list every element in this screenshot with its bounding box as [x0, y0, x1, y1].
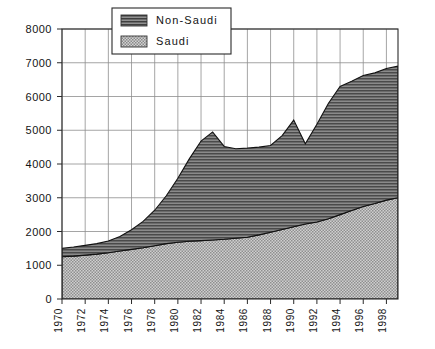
legend-swatch-saudi [121, 36, 147, 47]
legend-label-saudi: Saudi [156, 35, 190, 47]
x-axis-tick-label: 1994 [331, 308, 342, 333]
x-axis-tick-label: 1990 [285, 308, 296, 333]
x-axis-tick-label: 1976 [123, 308, 134, 333]
x-axis-tick-label: 1978 [146, 308, 157, 333]
y-axis-tick-label: 8000 [26, 23, 52, 35]
x-axis-tick-label: 1974 [99, 308, 110, 333]
x-axis-tick-label: 1980 [169, 308, 180, 333]
x-axis-tick-label: 1986 [238, 308, 249, 333]
stacked-area-chart: 010002000300040005000600070008000 197019… [0, 0, 435, 349]
y-axis-tick-label: 1000 [26, 259, 52, 271]
y-axis-tick-label: 7000 [26, 57, 52, 69]
x-axis-tick-label: 1982 [192, 308, 203, 333]
x-axis-tick-label: 1970 [53, 308, 64, 333]
chart-legend: Non-Saudi Saudi [112, 8, 231, 54]
x-axis-tick-label: 1992 [308, 308, 319, 333]
x-axis-tick-label: 1988 [262, 308, 273, 333]
y-axis-tick-label: 6000 [26, 91, 52, 103]
y-axis-tick-label: 5000 [26, 124, 52, 136]
y-axis-tick-label: 2000 [26, 226, 52, 238]
legend-label-non-saudi: Non-Saudi [156, 14, 218, 26]
legend-swatch-non-saudi [121, 15, 147, 26]
y-axis-tick-label: 4000 [26, 158, 52, 170]
x-axis-tick-label: 1996 [354, 308, 365, 333]
chart-container: 010002000300040005000600070008000 197019… [0, 0, 435, 349]
y-axis-tick-label: 0 [45, 293, 52, 305]
x-axis-tick-label: 1984 [215, 308, 226, 333]
y-axis-tick-label: 3000 [26, 192, 52, 204]
x-axis-tick-label: 1972 [76, 308, 87, 333]
x-axis-tick-label: 1998 [377, 308, 388, 333]
